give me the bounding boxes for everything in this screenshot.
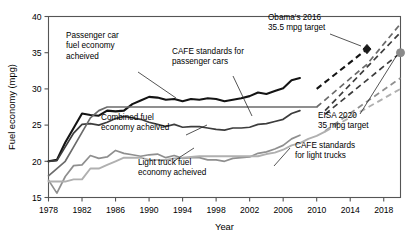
x-tick-label: 2006 bbox=[274, 205, 293, 215]
fuel-economy-chart: 152025303540 197819821986199019941998200… bbox=[0, 0, 409, 243]
annotation-line: CAFE standards bbox=[295, 141, 355, 150]
annotation-line: passenger cars bbox=[172, 57, 228, 66]
y-axis-title: Fuel economy (mpg) bbox=[6, 64, 17, 150]
x-tick-label: 1978 bbox=[39, 205, 58, 215]
x-tick-label: 2010 bbox=[307, 205, 326, 215]
x-tick-label: 2002 bbox=[240, 205, 259, 215]
x-tick-label: 1994 bbox=[173, 205, 192, 215]
annotation-line: economy acheived bbox=[101, 123, 170, 132]
chart-canvas: 152025303540 197819821986199019941998200… bbox=[0, 0, 409, 243]
annotation-line: Passenger car bbox=[66, 31, 119, 40]
y-tick-label: 25 bbox=[32, 120, 42, 130]
annotation-line: fuel economy bbox=[66, 41, 116, 50]
annotation-line: CAFE standards for bbox=[172, 47, 244, 56]
x-tick-label: 1982 bbox=[72, 205, 91, 215]
x-tick-label: 2014 bbox=[341, 205, 360, 215]
y-tick-label: 40 bbox=[32, 12, 42, 22]
y-tick-label: 30 bbox=[32, 84, 42, 94]
y-tick-label: 20 bbox=[32, 157, 42, 167]
annotation-line: acheived bbox=[66, 52, 99, 61]
annotation-line: Light truck fuel bbox=[138, 158, 191, 167]
x-tick-label: 1986 bbox=[106, 205, 125, 215]
annotation-line: 35 mpg target bbox=[318, 121, 369, 130]
x-tick-label: 1990 bbox=[140, 205, 159, 215]
y-tick-label: 35 bbox=[32, 48, 42, 58]
x-tick-label: 2018 bbox=[374, 205, 393, 215]
annotation-line: 35.5 mpg target bbox=[268, 23, 326, 32]
annotation-line: Obama's 2016 bbox=[268, 13, 321, 22]
annotation-obama-2016-target: Obama's 201635.5 mpg target bbox=[268, 13, 326, 32]
annotation-line: for light trucks bbox=[295, 151, 346, 160]
annotation-line: Combined fuel bbox=[101, 113, 154, 122]
marker-eisa-2020-target bbox=[397, 49, 405, 57]
x-axis-title: Year bbox=[215, 221, 234, 232]
annotation-line: economy acheived bbox=[138, 168, 207, 177]
x-tick-label: 1998 bbox=[207, 205, 226, 215]
annotation-line: EISA 2020 bbox=[318, 111, 357, 120]
y-tick-label: 15 bbox=[32, 193, 42, 203]
